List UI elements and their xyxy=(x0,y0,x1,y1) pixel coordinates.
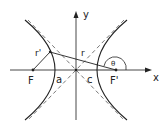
y-axis-label: y xyxy=(83,9,89,20)
focus-right-label: F' xyxy=(110,75,119,86)
x-axis-label: x xyxy=(153,72,159,83)
r-label: r xyxy=(81,48,85,58)
r-prime-label: r' xyxy=(35,48,41,58)
c-label: c xyxy=(87,74,93,85)
focus-left-label: F xyxy=(28,75,34,86)
focus-right-point xyxy=(115,69,118,72)
hyperbola-diagram: x y F F' a c r' r θ xyxy=(0,0,167,129)
a-label: a xyxy=(56,74,62,85)
theta-label: θ xyxy=(111,60,115,68)
focal-radii xyxy=(33,52,116,70)
branch-point xyxy=(49,51,51,53)
y-axis xyxy=(74,11,79,120)
focus-left-point xyxy=(32,69,35,72)
origin-point xyxy=(75,69,78,72)
